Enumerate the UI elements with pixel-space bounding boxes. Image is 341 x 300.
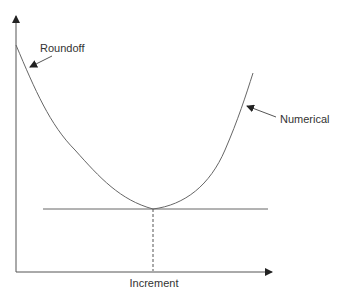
roundoff-arrow xyxy=(30,56,52,67)
total-error-curve xyxy=(16,45,253,209)
error-tradeoff-diagram: Roundoff Numerical Increment xyxy=(0,0,341,300)
numerical-arrow xyxy=(247,106,276,117)
diagram-canvas: Roundoff Numerical Increment xyxy=(0,0,341,300)
numerical-label: Numerical xyxy=(280,113,330,125)
roundoff-label: Roundoff xyxy=(40,42,85,54)
x-axis-label: Increment xyxy=(130,277,179,289)
